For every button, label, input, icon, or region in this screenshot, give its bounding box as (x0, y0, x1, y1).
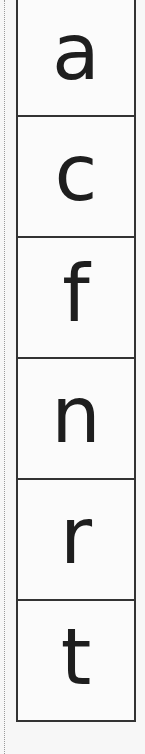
letter-glyph: c (55, 134, 98, 212)
letter-card: n (18, 359, 134, 480)
letter-glyph: t (61, 618, 92, 696)
letter-glyph: r (60, 497, 92, 575)
letter-card: f (18, 238, 134, 359)
dotted-cut-line (4, 0, 5, 754)
letter-card-strip: a c f n r t (16, 0, 136, 722)
letter-card: t (18, 601, 134, 720)
letter-card: r (18, 480, 134, 601)
letter-card: a (18, 0, 134, 117)
letter-glyph: n (51, 376, 100, 454)
letter-glyph: a (52, 13, 100, 91)
letter-glyph: f (62, 255, 89, 333)
letter-card: c (18, 117, 134, 238)
